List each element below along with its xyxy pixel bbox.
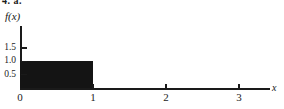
figure-header-label: 4. a. <box>2 0 22 6</box>
uniform-density-block <box>20 61 93 88</box>
y-tick-mark <box>21 47 27 49</box>
x-tick-label: 0 <box>11 91 29 103</box>
y-tick-mark <box>21 74 27 76</box>
y-tick-label: 0.5 <box>0 69 16 79</box>
x-axis-line <box>20 88 270 90</box>
x-tick-mark <box>238 84 240 89</box>
x-tick-mark <box>165 84 167 89</box>
uniform-distribution-figure: 4. a. f(x) 1.51.00.5 0123 x <box>0 0 284 109</box>
x-tick-label: 1 <box>84 91 102 103</box>
y-tick-label: 1.5 <box>0 42 16 52</box>
x-axis-label: x <box>272 82 276 93</box>
x-tick-label: 3 <box>230 91 248 103</box>
x-tick-mark <box>92 84 94 89</box>
y-tick-mark <box>21 61 27 63</box>
y-axis-label: f(x) <box>5 10 20 22</box>
x-tick-label: 2 <box>157 91 175 103</box>
y-tick-label: 1.0 <box>0 55 16 65</box>
